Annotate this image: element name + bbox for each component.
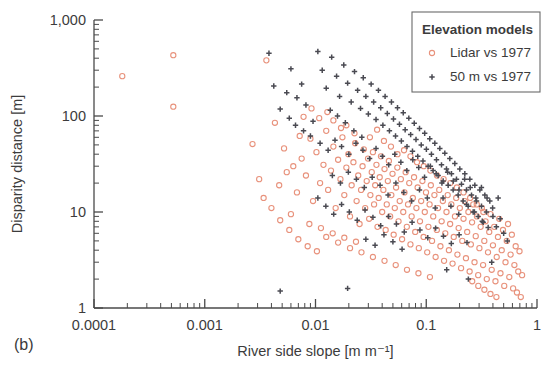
data-point xyxy=(359,250,364,255)
data-point xyxy=(494,294,499,299)
y-tick-label: 10 xyxy=(70,204,86,220)
data-point xyxy=(434,157,439,162)
data-point xyxy=(445,193,450,198)
data-point xyxy=(299,81,304,86)
data-point xyxy=(299,156,304,161)
y-axis-title: Disparity distance [m] xyxy=(9,95,25,234)
data-point xyxy=(368,193,373,198)
y-tick-label: 1 xyxy=(78,300,86,316)
data-point xyxy=(393,262,398,267)
data-point xyxy=(429,152,434,157)
data-point xyxy=(447,156,452,161)
data-point xyxy=(416,271,421,276)
data-point xyxy=(266,51,271,56)
data-point xyxy=(371,202,376,207)
data-point xyxy=(351,160,356,165)
legend-entry-label: Lidar vs 1977 xyxy=(450,45,531,60)
legend-title: Elevation models xyxy=(422,22,533,37)
data-point xyxy=(461,216,466,221)
data-point xyxy=(432,193,437,198)
data-point xyxy=(444,267,449,272)
data-point xyxy=(257,177,262,182)
data-point xyxy=(429,238,434,243)
data-point xyxy=(456,211,461,216)
data-point xyxy=(171,53,176,58)
data-point xyxy=(374,162,379,167)
data-point xyxy=(362,185,367,190)
data-point xyxy=(489,267,494,272)
data-point xyxy=(401,148,406,153)
data-point xyxy=(378,223,383,228)
data-point xyxy=(349,183,354,188)
data-point xyxy=(517,249,522,254)
data-point xyxy=(382,166,387,171)
data-point xyxy=(494,224,499,229)
data-point xyxy=(370,150,375,155)
data-point xyxy=(475,214,480,219)
data-point xyxy=(439,219,444,224)
data-point xyxy=(423,190,428,195)
data-point xyxy=(487,198,492,203)
data-point xyxy=(438,244,443,249)
data-point xyxy=(323,203,328,208)
data-point xyxy=(427,136,432,141)
data-point xyxy=(469,220,474,225)
data-point xyxy=(422,175,427,180)
data-point xyxy=(334,73,339,78)
data-point xyxy=(513,244,518,249)
data-point xyxy=(404,224,409,229)
data-point xyxy=(368,81,373,86)
data-point xyxy=(320,68,325,73)
data-point xyxy=(382,258,387,263)
data-point xyxy=(331,211,336,216)
data-point xyxy=(495,234,500,239)
data-point xyxy=(331,118,336,123)
data-point xyxy=(385,178,390,183)
data-point xyxy=(457,205,462,210)
data-point xyxy=(330,231,335,236)
data-point xyxy=(426,224,431,229)
data-point xyxy=(406,115,411,120)
data-point xyxy=(381,187,386,192)
data-point xyxy=(294,95,299,100)
data-point xyxy=(367,156,372,161)
data-point xyxy=(456,232,461,237)
data-point xyxy=(328,168,333,173)
data-point xyxy=(392,205,397,210)
data-point xyxy=(450,187,455,192)
data-point xyxy=(342,235,347,240)
data-point xyxy=(422,131,427,136)
data-point xyxy=(482,287,487,292)
data-point xyxy=(332,137,337,142)
data-point xyxy=(509,232,514,237)
data-point xyxy=(303,173,308,178)
data-point xyxy=(467,269,472,274)
data-point xyxy=(412,121,417,126)
data-point xyxy=(502,283,507,288)
data-point xyxy=(305,244,310,249)
data-point xyxy=(390,171,395,176)
data-point xyxy=(318,225,323,230)
data-point xyxy=(399,237,404,242)
data-point xyxy=(303,102,308,107)
data-point xyxy=(354,198,359,203)
data-point xyxy=(310,198,315,203)
data-point xyxy=(317,116,322,121)
data-point xyxy=(456,225,461,230)
data-point xyxy=(378,105,383,110)
data-point xyxy=(288,66,293,71)
data-point xyxy=(369,175,374,180)
data-point xyxy=(422,209,427,214)
data-point xyxy=(499,248,504,253)
data-point xyxy=(293,123,298,128)
data-point xyxy=(417,187,422,192)
data-point xyxy=(460,238,465,243)
data-point xyxy=(315,195,320,200)
data-point xyxy=(408,242,413,247)
data-point xyxy=(476,283,481,288)
data-point xyxy=(472,183,477,188)
data-point xyxy=(352,69,357,74)
data-point xyxy=(261,195,266,200)
data-point xyxy=(353,239,358,244)
data-point xyxy=(394,221,399,226)
